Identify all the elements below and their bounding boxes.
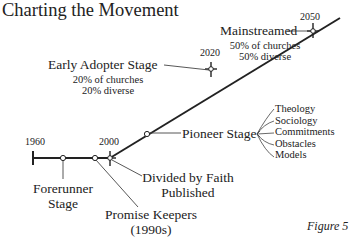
branch-commitments: Commitments (275, 126, 335, 138)
promise-keepers-line2: (1990s) (96, 222, 206, 237)
pioneer-marker (144, 131, 149, 136)
mainstreamed-block: Mainstreamed 50% of churches 50% diverse (220, 24, 310, 62)
early-adopter-churches: 20% of churches (48, 74, 168, 85)
promise-keepers-line1: Promise Keepers (96, 207, 206, 222)
year-1960: 1960 (25, 137, 45, 147)
branch-theology: Theology (275, 103, 335, 115)
year-2050: 2050 (300, 12, 320, 22)
forerunner-line2: Stage (33, 196, 93, 211)
mainstreamed-label: Mainstreamed (220, 24, 310, 38)
figure-label: Figure 5 (307, 220, 348, 232)
divided-by-faith-line1: Divided by Faith (140, 170, 236, 185)
branch-obstacles: Obstacles (275, 138, 335, 150)
pioneer-stage-label: Pioneer Stage (182, 127, 257, 141)
promise-keepers-marker (92, 155, 97, 160)
mainstreamed-diverse: 50% diverse (220, 51, 310, 62)
branch-models: Models (275, 149, 335, 161)
early-adopter-block: Early Adopter Stage 20% of churches 20% … (48, 58, 168, 96)
divided-by-faith-line2: Published (140, 185, 236, 200)
year-2000: 2000 (99, 137, 119, 147)
early-adopter-label: Early Adopter Stage (48, 58, 168, 72)
divided-by-faith-label: Divided by Faith Published (140, 170, 236, 200)
mainstreamed-churches: 50% of churches (220, 40, 310, 51)
forerunner-marker (60, 155, 65, 160)
branch-sociology: Sociology (275, 115, 335, 127)
year-2020: 2020 (200, 48, 220, 58)
forerunner-label: Forerunner Stage (33, 181, 93, 211)
promise-keepers-label: Promise Keepers (1990s) (96, 207, 206, 237)
pioneer-branch-list: Theology Sociology Commitments Obstacles… (275, 103, 335, 161)
page-title: Charting the Movement (2, 1, 179, 20)
pioneer-branch-lines (257, 109, 274, 157)
early-adopter-diverse: 20% diverse (48, 85, 168, 96)
forerunner-line1: Forerunner (33, 181, 93, 196)
